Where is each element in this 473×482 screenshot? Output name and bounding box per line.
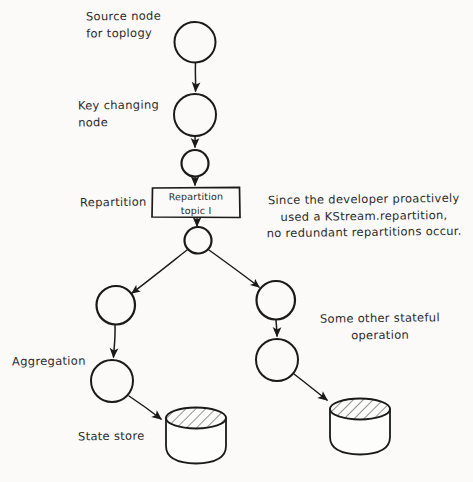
repartition-source-node-circle [182, 150, 209, 177]
node-aggregation-node[interactable] [91, 360, 133, 402]
node-left-state-store[interactable] [166, 408, 226, 464]
right-state-store-top [330, 399, 390, 420]
label-some-other-stateful-operation: Some other stateful operation [296, 309, 464, 344]
node-right-state-store[interactable] [330, 399, 390, 455]
node-source-node[interactable] [175, 22, 216, 63]
node-repartition-sink-node[interactable] [185, 227, 212, 254]
right-stateful-node-circle [257, 281, 296, 320]
edge-left-stateful-to-aggregation [114, 325, 116, 357]
label-source-node: Source node for toplogy [86, 8, 162, 42]
repartition-sink-node-circle [185, 227, 212, 254]
edge-right-stateful-to-operation [276, 320, 277, 336]
node-right-stateful-node[interactable] [257, 281, 296, 320]
key-changing-node-circle [174, 94, 216, 136]
node-key-changing-node[interactable] [174, 94, 216, 136]
right-operation-node-circle [256, 339, 298, 381]
label-key-changing-node: Key changing node [78, 97, 160, 131]
edge-fork-right [209, 250, 259, 287]
left-stateful-node-circle [97, 286, 136, 325]
label-repartition-topic-box: Repartition topic I [156, 190, 236, 219]
diagram-canvas: Source node for toplogy Key changing nod… [0, 0, 473, 482]
label-state-store: State store [78, 428, 145, 445]
source-node-circle [175, 22, 216, 63]
left-state-store-top [166, 408, 226, 429]
node-repartition-source-node[interactable] [182, 150, 209, 177]
annotation-repartition-note: Since the developer proactively used a K… [258, 190, 471, 243]
label-aggregation: Aggregation [12, 353, 86, 371]
edge-operation-to-store [294, 374, 327, 400]
label-repartition: Repartition [80, 194, 147, 211]
node-right-operation-node[interactable] [256, 339, 298, 381]
aggregation-node-circle [91, 360, 133, 402]
edge-fork-left [132, 250, 187, 293]
diagram-svg [0, 0, 473, 482]
edge-aggregation-to-store [129, 396, 161, 419]
node-left-stateful-node[interactable] [97, 286, 136, 325]
